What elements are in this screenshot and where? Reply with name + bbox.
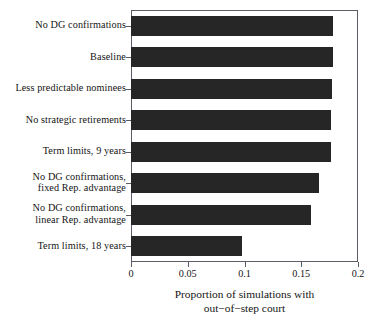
bar xyxy=(131,236,242,256)
category-label: Baseline xyxy=(90,51,126,62)
category-label: No DG confirmations, fixed Rep. advantag… xyxy=(33,171,126,194)
x-axis-tick-label: 0.2 xyxy=(352,268,365,279)
category-tick xyxy=(126,183,131,184)
category-label: Term limits, 18 years xyxy=(37,240,126,251)
bar-fill xyxy=(131,110,331,130)
bar-fill xyxy=(131,173,319,193)
category-label: No DG confirmations xyxy=(35,19,126,30)
x-axis-tick xyxy=(358,262,359,267)
category-label: Term limits, 9 years xyxy=(43,145,126,156)
category-tick xyxy=(126,89,131,90)
bar-fill xyxy=(131,142,331,162)
category-tick xyxy=(126,57,131,58)
x-axis-tick-label: 0 xyxy=(128,268,133,279)
bar-fill xyxy=(131,79,332,99)
x-axis-tick xyxy=(301,262,302,267)
bar-fill xyxy=(131,47,333,67)
x-axis-tick xyxy=(245,262,246,267)
bar xyxy=(131,142,331,162)
bar xyxy=(131,16,333,36)
x-axis-tick-label: 0.1 xyxy=(238,268,251,279)
category-label: No DG confirmations, linear Rep. advanta… xyxy=(33,202,126,225)
bar-fill xyxy=(131,205,311,225)
category-tick xyxy=(126,152,131,153)
bar xyxy=(131,110,331,130)
category-tick xyxy=(126,246,131,247)
bar-fill xyxy=(131,236,242,256)
bar-chart: No DG confirmationsBaselineLess predicta… xyxy=(0,0,382,328)
bar xyxy=(131,79,332,99)
x-axis-tick-label: 0.15 xyxy=(292,268,310,279)
bar xyxy=(131,47,333,67)
category-tick xyxy=(126,215,131,216)
category-label: Less predictable nominees xyxy=(15,82,126,93)
x-axis-tick xyxy=(188,262,189,267)
x-axis-tick xyxy=(131,262,132,267)
category-tick xyxy=(126,26,131,27)
category-label: No strategic retirements xyxy=(26,114,126,125)
bar xyxy=(131,205,311,225)
bar xyxy=(131,173,319,193)
x-axis-title: Proportion of simulations with out−of−st… xyxy=(131,287,358,315)
x-axis-tick-label: 0.05 xyxy=(179,268,197,279)
category-tick xyxy=(126,120,131,121)
bar-fill xyxy=(131,16,333,36)
